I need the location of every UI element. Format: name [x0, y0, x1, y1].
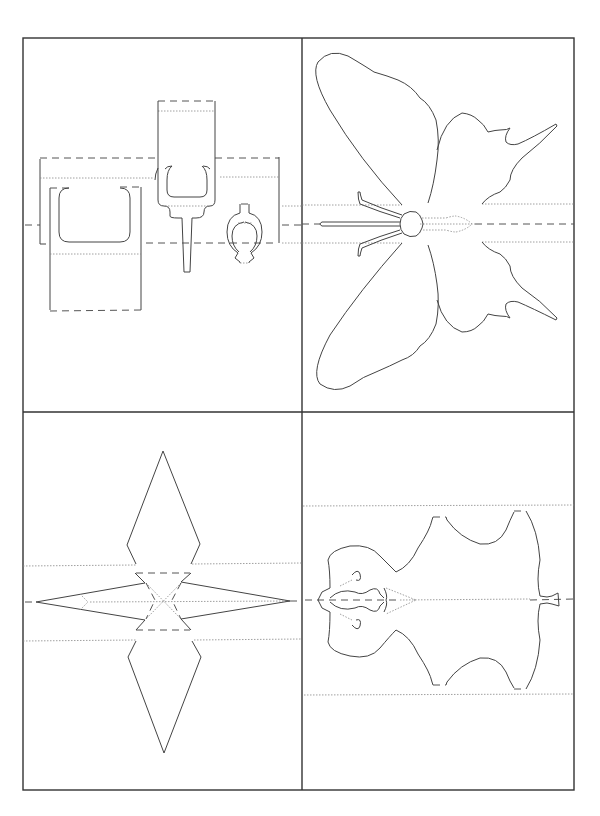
- panel-butterfly: [302, 53, 574, 389]
- template-sheet: [0, 0, 600, 816]
- armchair-shape: [50, 187, 141, 311]
- vase-shape: [227, 204, 262, 263]
- panel-label-4: Animal skin rug pop-up template: [0, 0, 14, 1]
- panel-star: [23, 451, 302, 753]
- frame: [23, 38, 574, 790]
- lamp-shape: [155, 101, 215, 272]
- butterfly-body: [320, 192, 472, 256]
- panel-chair-lamp-vase: [25, 101, 302, 311]
- panel-animal-skin: [303, 505, 574, 695]
